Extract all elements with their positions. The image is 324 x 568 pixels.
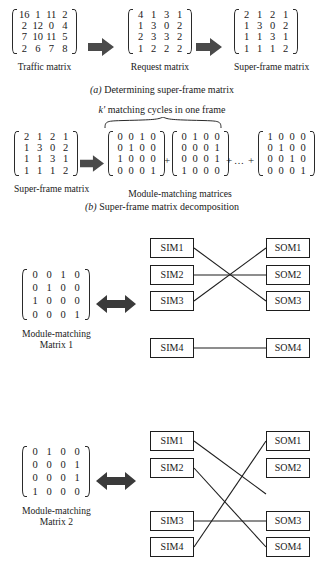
edge-sim1-som2: [194, 441, 266, 494]
figure-root: 16 1 11 2 2 12 0 4 7 10 11 5 2 6 7 8: [0, 0, 324, 568]
node-som2[interactable]: SOM2: [266, 458, 310, 478]
panel-d-connections: [0, 0, 324, 568]
node-som4[interactable]: SOM4: [266, 537, 310, 557]
node-sim3[interactable]: SIM3: [150, 511, 194, 531]
node-som3[interactable]: SOM3: [266, 511, 310, 531]
node-som1[interactable]: SOM1: [266, 431, 310, 451]
node-sim4[interactable]: SIM4: [150, 537, 194, 557]
edge-sim4-som1: [194, 441, 266, 547]
edge-sim2-som4: [194, 468, 266, 547]
node-sim2[interactable]: SIM2: [150, 458, 194, 478]
node-sim1[interactable]: SIM1: [150, 431, 194, 451]
